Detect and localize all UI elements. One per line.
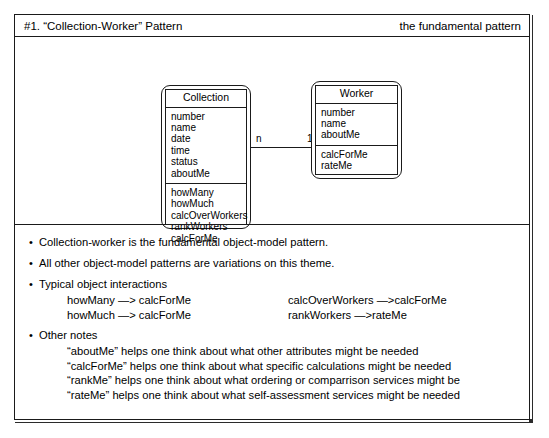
bullet-icon: •	[29, 278, 39, 291]
notes-area: • Collection-worker is the fundamental o…	[15, 227, 529, 419]
other-note-item: “rateMe” helps one think about what self…	[29, 388, 519, 403]
note-bullet: • Typical object interactions	[29, 278, 519, 291]
interaction-left: howMany —> calcForMe	[67, 293, 288, 308]
other-note-item: “calcForMe” helps one think about what s…	[29, 359, 519, 374]
note-bullet: • Other notes	[29, 329, 519, 342]
operation: calcOverWorkers	[171, 210, 246, 221]
operation: howMuch	[171, 198, 246, 209]
attribute: number	[321, 107, 397, 118]
other-note-item: “aboutMe” helps one think about what oth…	[29, 344, 519, 359]
note-text: Collection-worker is the fundamental obj…	[39, 236, 328, 249]
class-operations-worker: calcForMe rateMe	[316, 146, 397, 176]
interaction-row: howMuch —> calcForMe rankWorkers —>rateM…	[67, 308, 519, 323]
operation: rateMe	[321, 160, 397, 171]
pattern-header: #1. “Collection-Worker” Pattern the fund…	[15, 15, 529, 37]
class-attributes-collection: number name date time status aboutMe	[166, 108, 246, 184]
interaction-right: calcOverWorkers —>calcForMe	[288, 293, 447, 308]
interactions-group: • Typical object interactions howMany —>…	[29, 278, 519, 322]
bullet-icon: •	[29, 329, 39, 342]
other-notes-group: • Other notes “aboutMe” helps one think …	[29, 329, 519, 402]
interaction-row: howMany —> calcForMe calcOverWorkers —>c…	[67, 293, 519, 308]
attribute: aboutMe	[171, 168, 246, 179]
note-text: Typical object interactions	[39, 278, 167, 291]
attribute: time	[171, 145, 246, 156]
operation: howMany	[171, 187, 246, 198]
interaction-left: howMuch —> calcForMe	[67, 308, 288, 323]
attribute: status	[171, 156, 246, 167]
section-divider	[15, 224, 529, 225]
class-name-collection: Collection	[166, 90, 246, 108]
attribute: name	[321, 118, 397, 129]
class-attributes-worker: number name aboutMe	[316, 104, 397, 146]
attribute: date	[171, 133, 246, 144]
attribute: number	[171, 111, 246, 122]
note-bullet: • All other object-model patterns are va…	[29, 257, 519, 270]
interaction-right: rankWorkers —>rateMe	[288, 308, 407, 323]
note-text: Other notes	[39, 329, 97, 342]
other-note-item: “rankMe” helps one think about what orde…	[29, 373, 519, 388]
operation: calcForMe	[321, 149, 397, 160]
association-multiplicity-source: n	[256, 134, 262, 144]
pattern-subtitle: the fundamental pattern	[400, 20, 521, 32]
association-line	[251, 147, 318, 148]
class-box-collection[interactable]: Collection number name date time status …	[161, 85, 251, 229]
attribute: name	[171, 122, 246, 133]
class-name-worker: Worker	[316, 86, 397, 104]
bullet-icon: •	[29, 236, 39, 249]
bullet-icon: •	[29, 257, 39, 270]
note-text: All other object-model patterns are vari…	[39, 257, 334, 270]
attribute: aboutMe	[321, 129, 397, 140]
note-bullet: • Collection-worker is the fundamental o…	[29, 236, 519, 249]
class-box-worker[interactable]: Worker number name aboutMe calcForMe rat…	[311, 81, 402, 179]
uml-diagram-area: n 1 Collection number name date time sta…	[15, 37, 529, 227]
interaction-list: howMany —> calcForMe calcOverWorkers —>c…	[29, 293, 519, 322]
pattern-title: #1. “Collection-Worker” Pattern	[24, 20, 182, 32]
pattern-card: #1. “Collection-Worker” Pattern the fund…	[14, 14, 530, 420]
